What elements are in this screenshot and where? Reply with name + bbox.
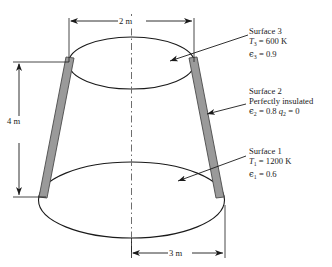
surface-3-temperature: T3 = 600 K <box>249 36 287 49</box>
annotation-surface-2: Surface 2 Perfectly insulated ϵ2 = 0.8 q… <box>249 86 313 119</box>
surface-2-emissivity-subscript: 2 <box>254 111 257 117</box>
dimension-label-top-diameter: 2 m <box>118 16 133 26</box>
annotation-surface-3: Surface 3 T3 = 600 K ϵ3 = 0.9 <box>249 26 287 62</box>
annotation-surface-1: Surface 1 T1 = 1200 K ϵ1 = 0.6 <box>249 146 291 182</box>
surface-3-temperature-value: = 600 K <box>259 36 287 46</box>
surface-3-emissivity-value: = 0.9 <box>259 49 277 59</box>
surface-2-flux-subscript: 2 <box>283 111 286 117</box>
figure-canvas: 2 m 4 m 3 m Surface 3 T3 = 600 K ϵ3 = 0.… <box>0 0 332 267</box>
surface-2-note: Perfectly insulated <box>249 96 313 106</box>
bottom-ellipse-surface-1 <box>39 162 225 238</box>
surface-1-emissivity: ϵ1 = 0.6 <box>249 169 291 182</box>
surface-2-properties: ϵ2 = 0.8 q2 = 0 <box>249 106 313 119</box>
dimension-label-height: 4 m <box>6 116 21 126</box>
surface-1-temperature-subscript: 1 <box>254 161 257 167</box>
surface-3-emissivity-subscript: 3 <box>254 54 257 60</box>
surface-3-temperature-subscript: 3 <box>254 41 257 47</box>
surface-1-emissivity-subscript: 1 <box>254 174 257 180</box>
leader-surface-2 <box>207 104 246 114</box>
surface-1-title: Surface 1 <box>249 146 291 156</box>
surface-2-flux-value: = 0 <box>288 106 299 116</box>
surface-2-emissivity-value: = 0.8 <box>259 106 277 116</box>
surface-3-emissivity: ϵ3 = 0.9 <box>249 49 287 62</box>
surface-1-temperature: T1 = 1200 K <box>249 156 291 169</box>
dimension-label-bottom-diameter: 3 m <box>168 248 183 258</box>
surface-1-temperature-value: = 1200 K <box>259 156 292 166</box>
leader-surface-3 <box>170 35 248 61</box>
surface-1-emissivity-value: = 0.6 <box>259 169 277 179</box>
surface-3-title: Surface 3 <box>249 26 287 36</box>
surface-2-title: Surface 2 <box>249 86 313 96</box>
